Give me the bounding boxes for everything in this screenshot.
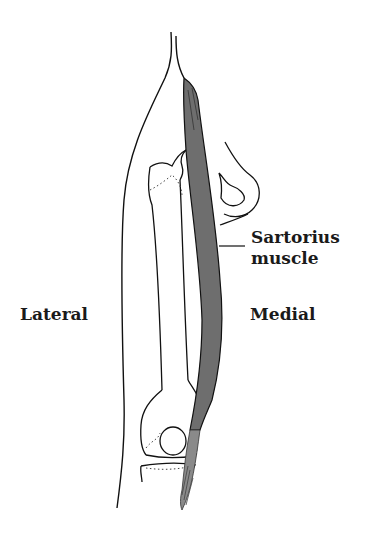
thigh-outline [117,32,184,508]
label-lateral: Lateral [20,304,88,324]
thigh-anatomy-illustration [0,0,376,553]
label-medial: Medial [250,304,315,324]
patella [160,427,186,455]
pelvis-fragment [219,142,259,225]
label-sartorius-line1: Sartorius [251,227,340,248]
label-sartorius-muscle: Sartorius muscle [251,227,340,269]
label-sartorius-line2: muscle [251,248,340,269]
sartorius-muscle [181,78,222,510]
